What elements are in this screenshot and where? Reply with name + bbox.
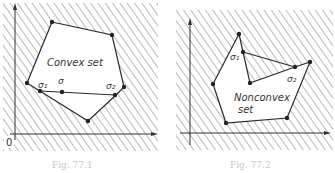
label-sigma1: σ₁ <box>230 52 240 62</box>
point-sigma2 <box>293 65 297 69</box>
caption-left: Fig. 77.1 <box>52 160 93 170</box>
hatched-background <box>176 10 333 150</box>
nonconvex-title-line2: set <box>238 104 254 115</box>
label-sigma: σ <box>58 76 64 86</box>
label-sigma2: σ₂ <box>287 74 297 84</box>
nonconvex-set-figure: σ₁ σ₂ Nonconvex set Fig. 77.2 <box>176 10 333 170</box>
caption-right: Fig. 77.2 <box>230 160 271 170</box>
convex-set-figure: 0 σ₁ σ σ₂ Convex set Fig. 77.1 <box>3 3 158 170</box>
point-sigma1 <box>241 50 245 54</box>
point-sigma <box>60 90 64 94</box>
label-sigma2: σ₂ <box>106 81 116 91</box>
label-sigma1: σ₁ <box>38 80 48 90</box>
point-sigma2 <box>113 93 117 97</box>
figure-canvas: 0 σ₁ σ σ₂ Convex set Fig. 77.1 <box>0 0 335 173</box>
nonconvex-title-line1: Nonconvex <box>234 92 290 103</box>
convex-set-title: Convex set <box>47 57 104 68</box>
origin-label: 0 <box>6 137 12 148</box>
